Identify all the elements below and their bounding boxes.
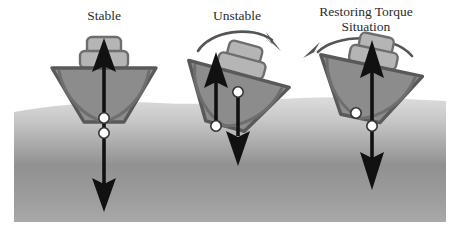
center-of-gravity-dot — [99, 113, 109, 123]
panel-label-stable: Stable — [87, 8, 121, 23]
panel-label-restoring-line1: Restoring Torque — [319, 4, 413, 19]
stability-diagram: Stable Unstable — [0, 0, 456, 235]
panel-label-unstable: Unstable — [213, 8, 261, 23]
center-of-gravity-dot — [351, 108, 361, 118]
center-of-gravity-dot — [233, 87, 243, 97]
center-of-buoyancy-dot — [99, 128, 109, 138]
center-of-buoyancy-dot — [211, 121, 221, 131]
center-of-buoyancy-dot — [367, 121, 377, 131]
